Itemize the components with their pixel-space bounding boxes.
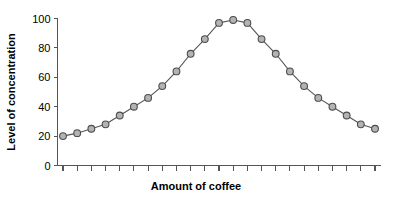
y-axis-title: Level of concentration <box>5 33 17 151</box>
data-point-marker <box>145 94 152 101</box>
y-axis-tick-label: 0 <box>44 160 50 172</box>
y-axis-tick-label: 60 <box>38 71 50 83</box>
data-point-marker <box>216 20 223 27</box>
data-point-marker <box>272 50 279 57</box>
data-point-marker <box>131 103 138 110</box>
data-point-marker <box>343 112 350 119</box>
plot-background <box>0 0 393 198</box>
data-point-marker <box>88 125 95 132</box>
data-point-marker <box>258 36 265 43</box>
x-axis-title: Amount of coffee <box>151 180 241 192</box>
concentration-vs-coffee-line-chart: 020406080100 Amount of coffee Level of c… <box>0 0 393 198</box>
data-point-marker <box>60 133 67 140</box>
chart-figure: 020406080100 Amount of coffee Level of c… <box>0 0 393 198</box>
y-axis-tick-label: 100 <box>32 13 50 25</box>
data-point-marker <box>372 125 379 132</box>
data-point-marker <box>329 103 336 110</box>
data-point-marker <box>116 112 123 119</box>
data-point-marker <box>102 121 109 128</box>
data-point-marker <box>287 68 294 75</box>
data-point-marker <box>173 68 180 75</box>
data-point-marker <box>74 130 81 137</box>
data-point-marker <box>159 83 166 90</box>
data-point-marker <box>201 36 208 43</box>
data-point-marker <box>301 83 308 90</box>
y-axis-tick-label: 40 <box>38 101 50 113</box>
data-point-marker <box>230 17 237 24</box>
data-point-marker <box>315 94 322 101</box>
data-point-marker <box>187 50 194 57</box>
data-point-marker <box>244 20 251 27</box>
x-axis <box>58 166 382 171</box>
y-axis-tick-label: 80 <box>38 42 50 54</box>
data-point-marker <box>357 121 364 128</box>
y-axis-tick-label: 20 <box>38 130 50 142</box>
